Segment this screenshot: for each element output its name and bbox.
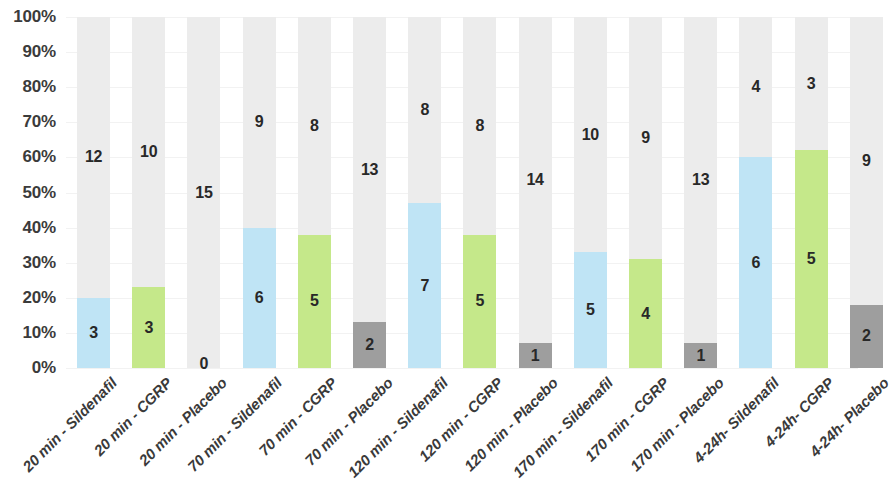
x-axis-tick-label: 120 min - Sildenafil — [344, 374, 451, 481]
bar-stack — [795, 17, 828, 368]
bar-column[interactable]: 87 — [408, 17, 441, 368]
bar-segment-responders[interactable] — [298, 235, 331, 368]
bar-segment-nonresponders[interactable] — [187, 17, 220, 368]
x-axis-tick-label: 120 min - Placebo — [461, 374, 561, 474]
bar-segment-responders[interactable] — [850, 305, 883, 368]
bar-column[interactable]: 150 — [187, 17, 220, 368]
bar-segment-nonresponders[interactable] — [574, 17, 607, 252]
bar-column[interactable]: 35 — [795, 17, 828, 368]
bar-stack — [574, 17, 607, 368]
bar-stack — [684, 17, 717, 368]
bar-column[interactable]: 94 — [629, 17, 662, 368]
bar-segment-responders[interactable] — [77, 298, 110, 368]
bar-stack — [132, 17, 165, 368]
bar-segment-nonresponders[interactable] — [684, 17, 717, 343]
bar-column[interactable]: 92 — [850, 17, 883, 368]
bar-segment-responders[interactable] — [463, 235, 496, 368]
bar-segment-responders[interactable] — [739, 157, 772, 368]
bar-segment-nonresponders[interactable] — [77, 17, 110, 298]
bar-stack — [408, 17, 441, 368]
bar-column[interactable]: 96 — [243, 17, 276, 368]
bar-segment-responders[interactable] — [795, 150, 828, 368]
bar-segment-nonresponders[interactable] — [463, 17, 496, 235]
bar-column[interactable]: 46 — [739, 17, 772, 368]
bar-stack — [463, 17, 496, 368]
bar-segment-nonresponders[interactable] — [408, 17, 441, 203]
bar-segment-nonresponders[interactable] — [629, 17, 662, 259]
bar-column[interactable]: 131 — [684, 17, 717, 368]
bar-segment-responders[interactable] — [132, 287, 165, 368]
bar-segment-nonresponders[interactable] — [519, 17, 552, 343]
bar-segment-responders[interactable] — [629, 259, 662, 368]
bar-column[interactable]: 132 — [353, 17, 386, 368]
bar-column[interactable]: 85 — [298, 17, 331, 368]
bar-segment-nonresponders[interactable] — [298, 17, 331, 235]
bar-column[interactable]: 141 — [519, 17, 552, 368]
bar-segment-nonresponders[interactable] — [353, 17, 386, 322]
x-axis-tick-label: 70 min - Sildenafil — [184, 374, 285, 475]
bar-stack — [77, 17, 110, 368]
bar-segment-responders[interactable] — [574, 252, 607, 368]
bar-stack — [298, 17, 331, 368]
bar-stack — [739, 17, 772, 368]
plot-area: 1231031509685132878514110594131463592 — [0, 0, 858, 380]
bar-segment-nonresponders[interactable] — [850, 17, 883, 305]
bar-segment-responders[interactable] — [684, 343, 717, 368]
x-axis-tick-label: 20 min - Sildenafil — [19, 374, 120, 475]
bar-stack — [187, 17, 220, 368]
bar-segment-responders[interactable] — [353, 322, 386, 368]
x-axis-tick-label: 170 min - Placebo — [626, 374, 726, 474]
bar-segment-nonresponders[interactable] — [795, 17, 828, 150]
x-axis-tick-label: 170 min - Sildenafil — [510, 374, 617, 481]
bar-column[interactable]: 103 — [132, 17, 165, 368]
bar-column[interactable]: 105 — [574, 17, 607, 368]
bar-segment-nonresponders[interactable] — [739, 17, 772, 157]
bar-segment-responders[interactable] — [519, 343, 552, 368]
bar-column[interactable]: 123 — [77, 17, 110, 368]
bar-segment-nonresponders[interactable] — [132, 17, 165, 287]
x-axis: 20 min - Sildenafil20 min - CGRP20 min -… — [0, 374, 858, 488]
bar-stack — [629, 17, 662, 368]
bar-stack — [243, 17, 276, 368]
bar-column[interactable]: 85 — [463, 17, 496, 368]
bar-stack — [519, 17, 552, 368]
bar-stack — [353, 17, 386, 368]
bar-stack — [850, 17, 883, 368]
bar-segment-responders[interactable] — [408, 203, 441, 368]
bar-segment-responders[interactable] — [243, 228, 276, 368]
bar-segment-nonresponders[interactable] — [243, 17, 276, 228]
